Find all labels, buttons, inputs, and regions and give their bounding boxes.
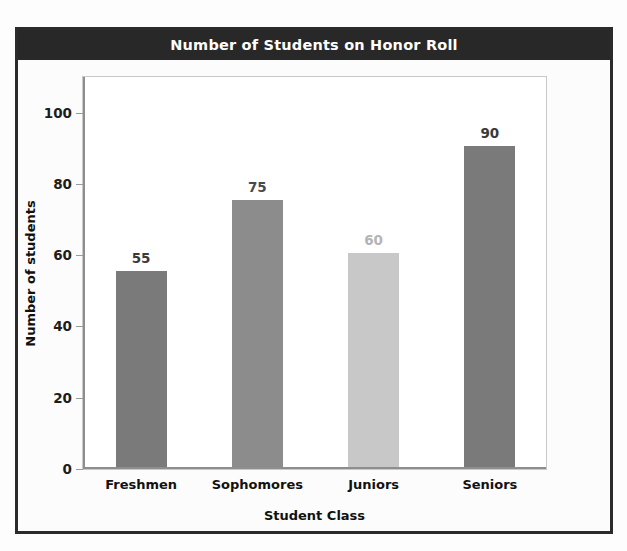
x-axis-category-label: Freshmen — [105, 477, 177, 492]
y-axis-tick — [76, 398, 83, 399]
x-axis-category-label: Juniors — [348, 477, 399, 492]
y-axis-tick — [76, 255, 83, 256]
y-axis-tick-label: 0 — [63, 461, 72, 477]
bar: 60 — [348, 253, 399, 467]
x-axis-line — [83, 467, 546, 469]
y-axis-tick — [76, 326, 83, 327]
y-axis-tick — [76, 184, 83, 185]
y-axis-title: Number of students — [18, 76, 42, 470]
x-axis-category-label: Sophomores — [212, 477, 303, 492]
y-axis-tick — [76, 113, 83, 114]
y-axis-tick-label: 80 — [53, 176, 72, 192]
y-axis-line — [83, 77, 85, 469]
y-axis-tick — [76, 469, 83, 470]
chart-title: Number of Students on Honor Roll — [170, 37, 458, 53]
bar-value-label: 55 — [132, 250, 151, 266]
y-axis-tick-label: 40 — [53, 318, 72, 334]
y-axis-title-text: Number of students — [23, 200, 38, 346]
bar: 75 — [232, 200, 283, 467]
y-axis-tick-label: 20 — [53, 390, 72, 406]
bar-value-label: 60 — [364, 232, 383, 248]
y-axis-tick-label: 100 — [44, 105, 72, 121]
bar: 90 — [464, 146, 515, 467]
plot-area: 020406080100 55756090 FreshmenSophomores… — [82, 76, 547, 470]
bar: 55 — [116, 271, 167, 467]
bar-value-label: 90 — [480, 125, 499, 141]
y-axis-tick-label: 60 — [53, 247, 72, 263]
x-axis-title: Student Class — [82, 508, 547, 523]
bar-value-label: 75 — [248, 179, 267, 195]
x-axis-category-label: Seniors — [462, 477, 517, 492]
chart-title-band: Number of Students on Honor Roll — [18, 30, 610, 60]
chart-figure-frame: Number of Students on Honor Roll Number … — [15, 27, 613, 534]
